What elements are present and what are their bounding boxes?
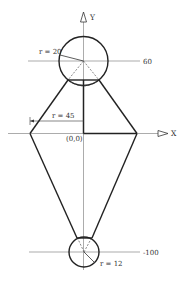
lower-construction-left [78, 239, 84, 252]
upper-center-line-label: 60 [143, 58, 152, 66]
upper-construction-right [84, 61, 100, 80]
lower-construction-right [84, 239, 91, 252]
lower-right-side [92, 134, 137, 239]
upper-right-side [99, 80, 137, 134]
half-width-label: r = 45 [52, 112, 75, 120]
y-axis-label: Y [89, 13, 96, 22]
diagram-canvas: Y X (0,0) 60 r = 20 r = 45 -100 r = 12 [0, 0, 186, 282]
origin-label: (0,0) [66, 135, 83, 143]
upper-radius-label: r = 20 [39, 48, 62, 56]
x-axis-arrow-icon [158, 131, 168, 137]
upper-left-side [30, 80, 68, 134]
lower-left-side [30, 134, 77, 239]
upper-construction-left [68, 61, 84, 80]
half-width-arrow-icon [30, 120, 34, 123]
lower-radius-label: r = 12 [100, 260, 123, 268]
y-axis-arrow-icon [81, 12, 87, 22]
upper-radius-line [60, 55, 84, 61]
x-axis-label: X [171, 129, 177, 138]
lower-center-line-label: -100 [143, 249, 159, 257]
lower-radius-line [84, 252, 95, 263]
